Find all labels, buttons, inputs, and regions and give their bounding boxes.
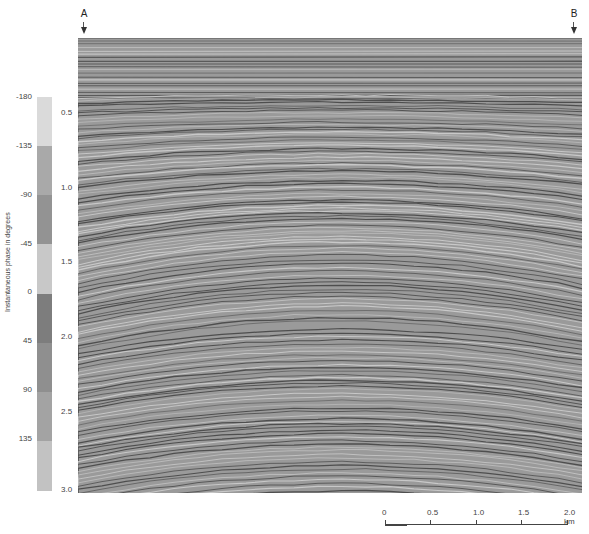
scale-bar-label: 0: [382, 508, 386, 517]
colorbar-tick-label: 90: [8, 385, 32, 394]
scale-bar-solid-segment: [385, 524, 407, 526]
down-arrow-icon: [571, 27, 577, 34]
colorbar-tick-label: -90: [8, 190, 32, 199]
time-axis-tick-label: 2.5: [61, 407, 72, 416]
scale-bar-tick: [430, 520, 431, 525]
scale-bar-label: 0.5: [427, 508, 438, 517]
scale-bar-label: 1.5: [518, 508, 529, 517]
colorbar-title: Instantaneous phase in degrees: [4, 212, 11, 312]
scale-bar-label: 1.0: [473, 508, 484, 517]
scale-bar-tick: [521, 520, 522, 525]
colorbar-segment: [37, 244, 52, 294]
distance-scale-bar: 00.51.01.52.0 km: [385, 508, 585, 532]
marker-label: A: [80, 8, 88, 19]
colorbar-segment: [37, 294, 52, 344]
colorbar-segment: [37, 195, 52, 245]
marker-label: B: [570, 8, 578, 19]
profile-marker-a: A: [80, 8, 88, 19]
time-axis-tick-label: 1.0: [61, 183, 72, 192]
colorbar-segment: [37, 392, 52, 442]
colorbar-segment: [37, 441, 52, 491]
colorbar-segment: [37, 97, 52, 147]
colorbar-segment: [37, 343, 52, 393]
phase-colorbar: [37, 97, 52, 490]
scale-bar-tick: [385, 520, 386, 525]
time-axis-tick-label: 1.5: [61, 257, 72, 266]
colorbar-segment: [37, 146, 52, 196]
colorbar-tick-label: -180: [8, 92, 32, 101]
scale-bar-label: 2.0 km: [564, 508, 585, 526]
colorbar-tick-label: -45: [8, 239, 32, 248]
profile-marker-b: B: [570, 8, 578, 19]
time-axis-tick-label: 3.0: [61, 485, 72, 494]
colorbar-tick-label: 135: [8, 434, 32, 443]
colorbar-tick-label: 0: [8, 287, 32, 296]
down-arrow-icon: [81, 27, 87, 34]
colorbar-tick-label: -135: [8, 141, 32, 150]
seismic-section-image: [78, 38, 582, 493]
time-axis-tick-label: 0.5: [61, 108, 72, 117]
time-axis-tick-label: 2.0: [61, 332, 72, 341]
colorbar-tick-label: 45: [8, 336, 32, 345]
scale-bar-tick: [476, 520, 477, 525]
